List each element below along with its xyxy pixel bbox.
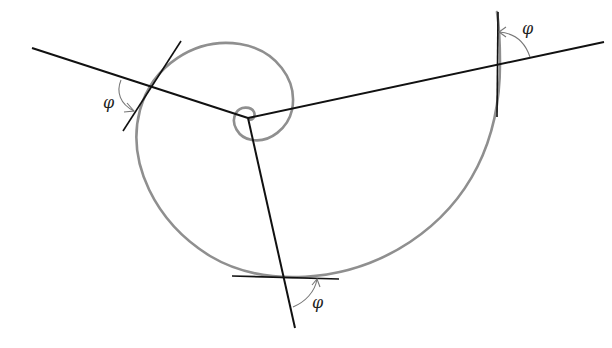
phi-label-left: φ bbox=[103, 93, 115, 112]
log-spiral-diagram: φ φ φ bbox=[0, 0, 612, 348]
tangent-right bbox=[497, 12, 498, 117]
logarithmic-spiral bbox=[137, 12, 500, 277]
ray-right bbox=[248, 42, 604, 118]
tangent-left bbox=[123, 41, 181, 131]
ray-bottom bbox=[248, 118, 295, 328]
phi-label-bottom: φ bbox=[312, 293, 324, 312]
phi-label-right: φ bbox=[522, 19, 534, 38]
angle-arc-left bbox=[119, 80, 134, 112]
